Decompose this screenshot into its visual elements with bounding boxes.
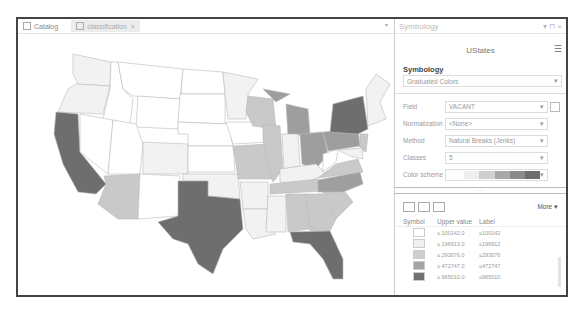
map-icon (76, 22, 84, 30)
field-row: Field VACANT▾ (395, 98, 566, 115)
color-scheme-dropdown[interactable]: ▾ (445, 169, 548, 181)
chevron-down-icon: ▾ (554, 77, 558, 85)
chevron-down-icon: ▾ (540, 171, 544, 179)
tab-bar: Catalog classification × ▾ (18, 19, 394, 34)
upper-value[interactable]: ≤ 196913.0 (437, 241, 479, 247)
upper-value[interactable]: ≤ 965010.0 (437, 274, 479, 280)
expression-button[interactable] (550, 102, 560, 112)
color-scheme-row: Color scheme ▾ (395, 166, 566, 183)
menu-icon[interactable]: ☰ (554, 44, 562, 54)
close-icon[interactable]: × (131, 23, 135, 30)
upper-value[interactable]: ≤ 472747.0 (437, 263, 479, 269)
class-label[interactable]: ≤965010 (479, 274, 558, 280)
column-header-label[interactable]: Label (479, 218, 558, 225)
field-value: VACANT (449, 103, 475, 110)
state-nebraska (178, 122, 233, 146)
upper-value[interactable]: ≤ 100142.0 (437, 230, 479, 236)
state-utah (108, 120, 143, 174)
state-southdakota (178, 94, 225, 124)
normalization-dropdown[interactable]: <None>▾ (445, 118, 548, 130)
layer-name: UStates (466, 46, 494, 55)
renderer-dropdown[interactable]: Graduated Colors ▾ (403, 75, 562, 87)
scrollbar[interactable] (558, 257, 561, 287)
chevron-down-icon: ▾ (540, 103, 544, 111)
more-label: More (537, 203, 552, 210)
method-value: Natural Breaks (Jenks) (449, 137, 515, 144)
state-colorado (143, 142, 188, 174)
pane-window-controls[interactable]: ▾ ⊓ × (543, 22, 562, 31)
field-label: Field (403, 103, 445, 110)
classes-tab-icon[interactable] (403, 202, 415, 212)
class-label[interactable]: ≤100142 (479, 230, 558, 236)
tab-classification[interactable]: classification × (71, 20, 140, 32)
normalization-label: Normalization (403, 120, 445, 127)
state-kansas (188, 146, 235, 172)
us-states-map[interactable] (18, 34, 394, 294)
table-row[interactable]: ≤ 472747.0 ≤472747 (395, 260, 566, 271)
classes-value: 5 (449, 154, 453, 161)
catalog-icon (23, 22, 31, 30)
app-frame: Catalog classification × ▾ (16, 17, 568, 297)
state-arizona (98, 174, 140, 219)
chevron-down-icon: ▾ (540, 154, 544, 162)
method-dropdown[interactable]: Natural Breaks (Jenks)▾ (445, 135, 548, 147)
chevron-down-icon: ▾ (540, 120, 544, 128)
class-label[interactable]: ≤196912 (479, 241, 558, 247)
pane-title-bar: Symbology ▾ ⊓ × (395, 19, 566, 34)
field-dropdown[interactable]: VACANT▾ (445, 101, 548, 113)
state-newyork (330, 96, 368, 134)
classes-label: Classes (403, 154, 445, 161)
classes-dropdown[interactable]: 5▾ (445, 152, 548, 164)
state-tennessee (270, 179, 323, 194)
state-oregon (58, 84, 110, 114)
symbology-pane: Symbology ▾ ⊓ × UStates ☰ Symbology Grad… (395, 19, 566, 295)
state-washington (73, 54, 111, 86)
class-label[interactable]: ≤293076 (479, 252, 558, 258)
normalization-value: <None> (449, 120, 472, 127)
classes-toolbar: More ▾ (395, 198, 566, 216)
layer-header: UStates ☰ (395, 34, 566, 62)
more-button[interactable]: More ▾ (537, 203, 558, 211)
symbol-swatch[interactable] (413, 250, 425, 259)
chevron-down-icon: ▾ (540, 137, 544, 145)
table-row[interactable]: ≤ 196913.0 ≤196912 (395, 238, 566, 249)
chevron-down-icon[interactable]: ▾ (385, 21, 388, 28)
class-label[interactable]: ≤472747 (479, 263, 558, 269)
section-title: Symbology (395, 62, 566, 75)
symbol-swatch[interactable] (413, 272, 425, 281)
symbol-swatch[interactable] (413, 228, 425, 237)
scales-tab-icon[interactable] (433, 202, 445, 212)
normalization-row: Normalization <None>▾ (395, 115, 566, 132)
color-ramp (449, 171, 540, 179)
state-maryland (338, 148, 363, 159)
tab-label: Catalog (34, 23, 58, 30)
tab-label: classification (87, 23, 127, 30)
splitter-handle[interactable]: ··· (395, 187, 566, 194)
state-newengland (366, 74, 390, 126)
column-header-symbol[interactable]: Symbol (403, 218, 437, 225)
symbol-swatch[interactable] (413, 239, 425, 248)
classes-row: Classes 5▾ (395, 149, 566, 166)
method-label: Method (403, 137, 445, 144)
symbol-swatch[interactable] (413, 261, 425, 270)
state-northdakota (181, 69, 225, 94)
pane-title: Symbology (399, 22, 439, 31)
divider (395, 89, 566, 94)
table-row[interactable]: ≤ 965010.0 ≤965010 (395, 271, 566, 282)
table-header: Symbol Upper value Label (395, 216, 566, 227)
tab-catalog[interactable]: Catalog (18, 20, 63, 32)
state-newmexico (138, 174, 180, 219)
state-arkansas (240, 182, 268, 209)
state-wyoming (136, 96, 180, 129)
color-scheme-label: Color scheme (403, 171, 445, 178)
renderer-value: Graduated Colors (407, 78, 458, 85)
table-row[interactable]: ≤ 100142.0 ≤100142 (395, 227, 566, 238)
upper-value[interactable]: ≤ 293076.0 (437, 252, 479, 258)
histogram-tab-icon[interactable] (418, 202, 430, 212)
table-row[interactable]: ≤ 293076.0 ≤293076 (395, 249, 566, 260)
map-view: Catalog classification × ▾ (18, 19, 395, 295)
method-row: Method Natural Breaks (Jenks)▾ (395, 132, 566, 149)
state-florida (290, 231, 343, 279)
column-header-upper-value[interactable]: Upper value (437, 218, 479, 225)
state-mississippi (266, 196, 286, 232)
